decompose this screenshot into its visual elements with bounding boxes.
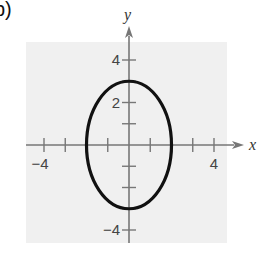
- y-tick-label: 2: [112, 94, 120, 111]
- ellipse-plot: b) −4442−4 x y: [0, 0, 265, 255]
- y-tick-label: 4: [112, 51, 120, 68]
- x-tick-label: 4: [210, 155, 218, 172]
- y-axis-label: y: [122, 6, 132, 24]
- panel-label: b): [0, 0, 12, 20]
- x-axis-label: x: [248, 136, 256, 153]
- y-tick-label: −4: [103, 221, 120, 238]
- x-tick-label: −4: [31, 155, 48, 172]
- plot-background: [26, 42, 227, 243]
